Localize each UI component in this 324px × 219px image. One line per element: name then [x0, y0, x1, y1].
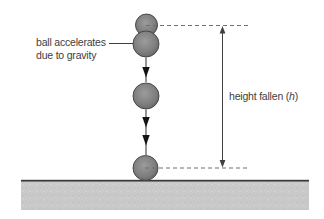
acceleration-label-line2: due to gravity — [36, 49, 96, 61]
height-label-prefix: height fallen ( — [229, 90, 289, 102]
ground — [21, 180, 309, 210]
diagram-canvas — [0, 0, 324, 219]
acceleration-label-line1: ball accelerates — [36, 36, 106, 48]
height-label-suffix: ) — [295, 90, 298, 102]
ball-position-2 — [133, 31, 159, 57]
ground-surface — [21, 182, 309, 211]
height-measurement-arrow — [220, 26, 226, 168]
gravity-fall-diagram: ball accelerates due to gravity height f… — [0, 0, 324, 219]
down-arrowhead-2 — [142, 117, 149, 128]
ball-position-3 — [133, 83, 159, 109]
down-arrowhead-3 — [142, 135, 149, 146]
ground-edge-line — [21, 180, 309, 182]
down-arrowhead-1 — [142, 67, 149, 78]
up-arrowhead — [220, 26, 226, 34]
down-arrowhead-measure — [220, 160, 226, 168]
acceleration-label: ball accelerates due to gravity — [36, 36, 106, 62]
falling-balls — [133, 14, 159, 181]
height-fallen-label: height fallen (h) — [229, 90, 298, 103]
